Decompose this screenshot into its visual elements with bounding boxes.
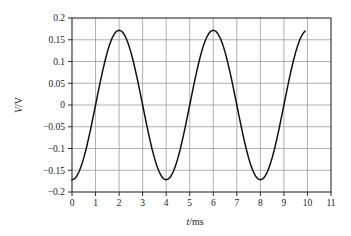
y-axis-title: V/V: [13, 96, 24, 113]
x-tick-label: 7: [234, 198, 239, 208]
x-tick-label: 3: [140, 198, 145, 208]
x-tick-label: 2: [117, 198, 122, 208]
x-tick-label: 1: [93, 198, 98, 208]
voltage-waveform-chart: 01234567891011 0.20.150.10.050−0.05−0.1−…: [0, 0, 351, 236]
x-tick-label: 5: [187, 198, 192, 208]
y-axis-title-text: V/V: [13, 96, 24, 113]
x-tick-label: 4: [164, 198, 169, 208]
x-tick-label: 11: [326, 198, 335, 208]
x-tick-label: 0: [70, 198, 75, 208]
y-tick-label: −0.15: [43, 166, 65, 176]
x-tick-label: 10: [303, 198, 313, 208]
x-tick-label: 9: [282, 198, 287, 208]
y-tick-label: 0.15: [48, 35, 65, 45]
y-axis-unit: /V: [13, 96, 24, 107]
y-tick-label: 0.2: [53, 13, 65, 23]
y-tick-label: 0.1: [53, 57, 65, 67]
y-tick-label: 0: [60, 100, 65, 110]
x-tick-label: 6: [211, 198, 216, 208]
y-tick-label: −0.2: [48, 187, 65, 197]
y-tick-label: −0.05: [43, 122, 65, 132]
x-axis-unit: /ms: [189, 216, 204, 227]
x-axis-title-text: t/ms: [186, 216, 203, 227]
y-tick-label: 0.05: [48, 79, 65, 89]
x-axis-title: t/ms: [186, 216, 203, 227]
y-tick-label: −0.1: [48, 144, 65, 154]
chart-figure: 01234567891011 0.20.150.10.050−0.05−0.1−…: [0, 0, 351, 236]
x-tick-label: 8: [258, 198, 263, 208]
